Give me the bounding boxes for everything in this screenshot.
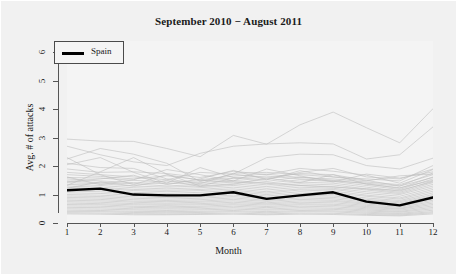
x-axis-tick-label: 6 bbox=[224, 227, 242, 237]
y-axis-tick-label: 6 bbox=[37, 45, 47, 59]
y-axis-tick-label: 0 bbox=[37, 216, 47, 230]
y-axis-tick-label: 4 bbox=[37, 102, 47, 116]
x-axis-tick-label: 8 bbox=[291, 227, 309, 237]
background-series-group bbox=[67, 109, 433, 216]
chart-title: September 2010 − August 2011 bbox=[1, 15, 456, 27]
y-axis-tick-label: 3 bbox=[37, 131, 47, 145]
legend-box: Spain bbox=[54, 41, 124, 64]
y-axis-line bbox=[58, 62, 59, 213]
x-axis-tick-label: 3 bbox=[125, 227, 143, 237]
x-axis-tick-label: 1 bbox=[58, 227, 76, 237]
series-line bbox=[67, 109, 433, 157]
y-axis-tick-label: 2 bbox=[37, 159, 47, 173]
x-axis-line bbox=[67, 223, 433, 224]
legend-label-spain: Spain bbox=[91, 46, 112, 56]
y-axis-tick bbox=[53, 109, 58, 110]
x-axis-tick-label: 10 bbox=[358, 227, 376, 237]
y-axis-tick-label: 1 bbox=[37, 188, 47, 202]
series-lines-svg bbox=[67, 41, 433, 223]
y-axis-tick bbox=[53, 81, 58, 82]
y-axis-tick bbox=[53, 166, 58, 167]
x-axis-tick-label: 11 bbox=[391, 227, 409, 237]
y-axis-tick bbox=[53, 195, 58, 196]
x-axis-tick-label: 12 bbox=[424, 227, 442, 237]
x-axis-tick-label: 7 bbox=[258, 227, 276, 237]
x-axis-tick-label: 2 bbox=[91, 227, 109, 237]
x-axis-title: Month bbox=[1, 245, 456, 256]
y-axis-tick bbox=[53, 138, 58, 139]
x-axis-tick-label: 9 bbox=[324, 227, 342, 237]
x-axis-tick-label: 4 bbox=[158, 227, 176, 237]
chart-figure: September 2010 − August 2011 0123456 123… bbox=[0, 0, 457, 275]
legend-line-swatch-spain bbox=[62, 52, 84, 55]
plot-area bbox=[67, 41, 433, 223]
y-axis-tick bbox=[53, 223, 58, 224]
x-axis-tick-label: 5 bbox=[191, 227, 209, 237]
y-axis-tick-label: 5 bbox=[37, 74, 47, 88]
y-axis-title: Avg. # of attacks bbox=[24, 63, 35, 213]
